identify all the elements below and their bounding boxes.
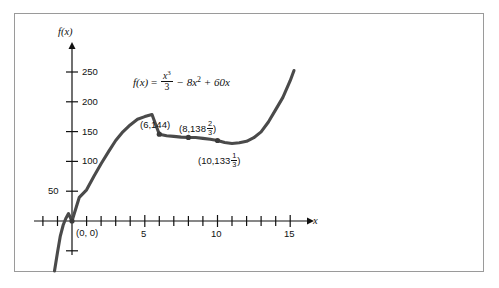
x-axis-label: x <box>313 215 318 226</box>
point-label-10-prefix: (10,133 <box>198 155 230 166</box>
equation-term2-exponent: 2 <box>197 75 201 84</box>
y-tick-label-100: 100 <box>82 155 98 166</box>
equation-fraction-denominator: 3 <box>161 82 173 92</box>
data-point-marker <box>157 132 162 137</box>
point-label-10-133-1-3: (10,13313) <box>198 152 241 168</box>
equation-fraction: x3 3 <box>161 70 173 92</box>
point-label-8-suffix: ) <box>213 123 216 134</box>
point-label-6-144: (6,144) <box>140 119 170 130</box>
y-tick-label-50: 50 <box>48 185 59 196</box>
equation-lhs: f(x) <box>133 76 148 88</box>
equation-numerator-exponent: 3 <box>167 69 170 77</box>
equation-equals: = <box>151 76 157 88</box>
y-tick-label-150: 150 <box>82 126 98 137</box>
plot-canvas <box>0 0 499 288</box>
x-tick-label-10: 10 <box>211 228 222 239</box>
origin-point-label: (0, 0) <box>76 227 98 238</box>
y-axis-label: f(x) <box>58 26 73 37</box>
point-label-8-prefix: (8,138 <box>179 123 206 134</box>
origin-point-marker <box>69 218 74 223</box>
equation-term2: − 8x <box>177 76 198 88</box>
function-equation: f(x) = x3 3 − 8x2 + 60x <box>133 70 230 92</box>
equation-term3: + 60x <box>204 76 230 88</box>
y-tick-label-200: 200 <box>82 96 98 107</box>
point-label-10-suffix: ) <box>237 155 240 166</box>
x-tick-label-5: 5 <box>141 228 146 239</box>
figure-root: f(x) x 250 200 150 100 50 5 10 15 (0, 0)… <box>0 0 499 288</box>
y-tick-label-250: 250 <box>82 66 98 77</box>
data-point-marker <box>215 138 220 143</box>
x-tick-label-15: 15 <box>284 228 295 239</box>
point-label-8-138-2-3: (8,13823) <box>179 120 216 136</box>
